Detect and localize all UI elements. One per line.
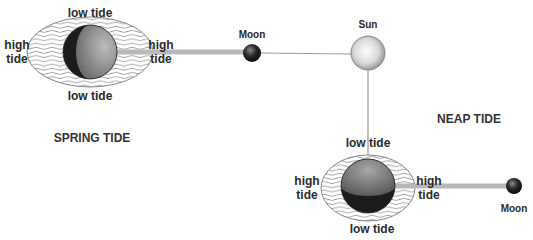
neap-moon-label: Moon	[494, 202, 533, 216]
neap-high-tide-right-label: high tide	[414, 174, 444, 202]
neap-tide-title: NEAP TIDE	[434, 112, 504, 126]
label-line: high	[2, 38, 32, 52]
sun-icon	[351, 36, 385, 70]
label-line: tide	[292, 188, 322, 202]
spring-moon-icon	[243, 44, 261, 62]
label-line: tide	[414, 188, 444, 202]
neap-low-tide-bottom-label: low tide	[344, 222, 400, 236]
neap-high-tide-left-label: high tide	[292, 174, 322, 202]
label-line: high	[414, 174, 444, 188]
spring-moon-label: Moon	[232, 28, 272, 42]
neap-earth-icon	[341, 159, 395, 213]
spring-earth-icon	[63, 25, 117, 79]
label-line: tide	[146, 52, 176, 66]
neap-moon-icon	[506, 178, 522, 194]
label-line: high	[146, 38, 176, 52]
neap-gravity-beam	[392, 184, 514, 189]
sun-label: Sun	[350, 18, 386, 32]
spring-high-tide-left-label: high tide	[2, 38, 32, 66]
spring-tide-title: SPRING TIDE	[52, 131, 132, 145]
spring-tide-group	[20, 14, 352, 94]
tides-diagram: low tide low tide high tide high tide Mo…	[0, 0, 533, 240]
neap-low-tide-top-label: low tide	[340, 136, 396, 150]
label-line: high	[292, 174, 322, 188]
spring-low-tide-top-label: low tide	[62, 6, 118, 20]
label-line: tide	[2, 52, 32, 66]
spring-high-tide-right-label: high tide	[146, 38, 176, 66]
spring-low-tide-bottom-label: low tide	[62, 89, 118, 103]
spring-gravity-beam	[112, 50, 252, 55]
